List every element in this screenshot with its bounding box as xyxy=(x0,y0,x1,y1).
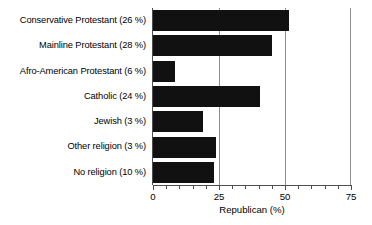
bar-row xyxy=(153,8,351,33)
bar-chart-figure: Conservative Protestant (26 %) Mainline … xyxy=(0,0,372,225)
bar-row xyxy=(153,160,351,185)
bar-row xyxy=(153,134,351,159)
category-label: Jewish (3 %) xyxy=(0,109,150,134)
bar-jewish xyxy=(153,111,203,132)
bar-mainline-protestant xyxy=(153,35,272,56)
x-tick-minor xyxy=(232,185,233,189)
bar-catholic xyxy=(153,86,260,107)
bar-series xyxy=(153,8,351,185)
x-tick-minor xyxy=(245,185,246,189)
x-tick-label: 50 xyxy=(280,192,291,202)
bar-row xyxy=(153,59,351,84)
x-tick-minor xyxy=(311,185,312,189)
bar-other-religion xyxy=(153,137,216,158)
x-tick-label: 25 xyxy=(214,192,225,202)
x-tick-minor xyxy=(272,185,273,189)
x-tick-minor xyxy=(338,185,339,189)
x-tick-major xyxy=(285,185,286,190)
x-tick-major xyxy=(153,185,154,190)
category-label: Mainline Protestant (28 %) xyxy=(0,33,150,58)
bar-row xyxy=(153,33,351,58)
x-tick-minor xyxy=(298,185,299,189)
category-label: Catholic (24 %) xyxy=(0,84,150,109)
plot-area xyxy=(153,8,351,185)
x-tick-label: 75 xyxy=(346,192,357,202)
category-axis-labels: Conservative Protestant (26 %) Mainline … xyxy=(0,8,150,185)
bar-no-religion xyxy=(153,162,214,183)
x-tick-minor xyxy=(193,185,194,189)
x-tick-label: 0 xyxy=(150,192,155,202)
x-tick-minor xyxy=(206,185,207,189)
x-tick-minor xyxy=(259,185,260,189)
category-label: No religion (10 %) xyxy=(0,160,150,185)
bar-row xyxy=(153,84,351,109)
x-tick-major xyxy=(351,185,352,190)
category-label: Other religion (3 %) xyxy=(0,134,150,159)
x-tick-major xyxy=(219,185,220,190)
x-tick-minor xyxy=(179,185,180,189)
category-label: Afro-American Protestant (6 %) xyxy=(0,59,150,84)
x-tick-minor xyxy=(325,185,326,189)
x-tick-minor xyxy=(166,185,167,189)
bar-afro-american-protestant xyxy=(153,61,175,82)
bar-row xyxy=(153,109,351,134)
x-axis-title: Republican (%) xyxy=(153,205,351,215)
category-label: Conservative Protestant (26 %) xyxy=(0,8,150,33)
figure-caption xyxy=(0,216,372,225)
x-axis: 0255075 xyxy=(153,185,351,186)
bar-conservative-protestant xyxy=(153,10,289,31)
